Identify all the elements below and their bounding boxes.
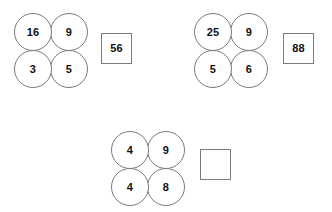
circle-bottom-left[interactable]: 3 [14,50,52,88]
circle-value: 5 [66,64,72,75]
circle-value: 6 [246,64,252,75]
puzzle-group-2: 25 9 5 6 88 [194,13,324,93]
answer-value: 56 [110,43,123,54]
answer-box[interactable]: 88 [283,33,314,64]
answer-box[interactable] [200,149,231,180]
circle-top-right[interactable]: 9 [230,13,268,51]
circle-bottom-right[interactable]: 5 [50,50,88,88]
circle-bottom-left[interactable]: 4 [111,168,149,206]
circle-value: 4 [127,182,133,193]
circle-top-left[interactable]: 16 [14,13,52,51]
circle-bottom-right[interactable]: 6 [230,50,268,88]
circle-value: 9 [246,27,252,38]
circle-value: 9 [66,27,72,38]
circle-value: 3 [30,64,36,75]
circle-value: 4 [127,145,133,156]
circle-value: 16 [27,27,40,38]
circle-value: 9 [163,145,169,156]
circle-value: 8 [163,182,169,193]
circle-bottom-right[interactable]: 8 [147,168,185,206]
circle-value: 25 [207,27,220,38]
circle-value: 5 [210,64,216,75]
puzzle-group-1: 16 9 3 5 56 [14,13,174,93]
circle-top-right[interactable]: 9 [50,13,88,51]
circle-bottom-left[interactable]: 5 [194,50,232,88]
answer-value: 88 [292,43,305,54]
answer-box[interactable]: 56 [101,33,132,64]
puzzle-canvas: 16 9 3 5 56 25 9 5 [0,0,332,212]
circle-top-left[interactable]: 25 [194,13,232,51]
circle-top-right[interactable]: 9 [147,131,185,169]
puzzle-group-3: 4 9 4 8 [111,131,241,211]
circle-top-left[interactable]: 4 [111,131,149,169]
